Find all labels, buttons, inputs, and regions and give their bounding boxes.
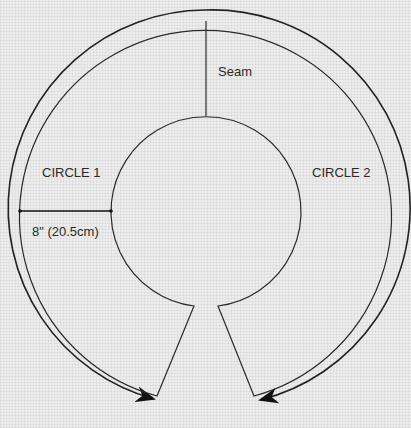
circle-2-label: CIRCLE 2	[312, 166, 371, 179]
dimension-label: 8" (20.5cm)	[32, 225, 99, 238]
dimension-endpoint-right	[109, 209, 113, 213]
dimension-endpoint-left	[18, 209, 22, 213]
collar-pattern-diagram	[0, 0, 411, 428]
seam-label: Seam	[218, 65, 252, 78]
outer-arrow-left	[8, 10, 205, 399]
circle-1-label: CIRCLE 1	[42, 166, 101, 179]
